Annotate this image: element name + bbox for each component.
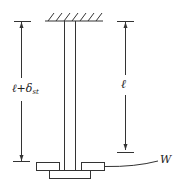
rod (65, 21, 76, 170)
label-original-length: ℓ (121, 77, 126, 91)
rod-weight-diagram: ℓ+δst ℓ W (0, 0, 181, 186)
label-total-length: ℓ+δst (12, 82, 39, 96)
fixed-support (45, 13, 103, 21)
weight (37, 163, 105, 179)
weight-leader-line (105, 161, 158, 167)
label-weight: W (160, 153, 173, 166)
